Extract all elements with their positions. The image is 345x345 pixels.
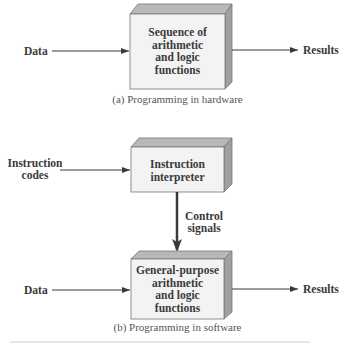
caption-b: (b) Programming in software bbox=[100, 321, 255, 333]
data-input-label-b: Data bbox=[24, 284, 48, 296]
label-line: Control bbox=[184, 210, 224, 222]
box-line: Sequence of bbox=[130, 26, 225, 39]
diagram-canvas: Data Results Sequence of arithmetic and … bbox=[0, 0, 345, 345]
control-signals-label: Control signals bbox=[184, 210, 224, 234]
box-line: General-purpose bbox=[131, 264, 224, 277]
label-line: signals bbox=[184, 222, 224, 234]
box-line: functions bbox=[130, 64, 225, 77]
general-purpose-box-text: General-purpose arithmetic and logic fun… bbox=[131, 264, 224, 314]
label-line: Instruction bbox=[6, 157, 64, 169]
results-output-label-a: Results bbox=[303, 44, 339, 56]
instruction-codes-label: Instruction codes bbox=[6, 157, 64, 181]
data-input-label-a: Data bbox=[24, 45, 48, 57]
box-line: and logic bbox=[131, 289, 224, 302]
hardware-box-text: Sequence of arithmetic and logic functio… bbox=[130, 26, 225, 76]
box-line: and logic bbox=[130, 51, 225, 64]
box-line: interpreter bbox=[131, 171, 224, 184]
caption-a: (a) Programming in hardware bbox=[100, 93, 255, 105]
box-line: arithmetic bbox=[130, 39, 225, 52]
results-output-label-b: Results bbox=[303, 283, 339, 295]
label-line: codes bbox=[6, 169, 64, 181]
interpreter-box-text: Instruction interpreter bbox=[131, 158, 224, 183]
box-line: arithmetic bbox=[131, 277, 224, 290]
cutoff-text-remnant bbox=[10, 341, 310, 343]
box-line: functions bbox=[131, 302, 224, 315]
box-line: Instruction bbox=[131, 158, 224, 171]
